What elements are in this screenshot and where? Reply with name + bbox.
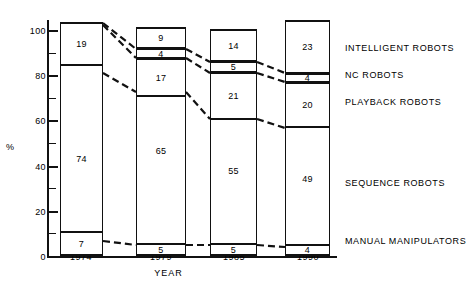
- segment-value: 74: [61, 154, 102, 163]
- segment-1990-playback-robots[interactable]: 20: [285, 82, 330, 128]
- segment-value: 9: [137, 34, 185, 43]
- segment-1974-intelligent-robots[interactable]: 19: [60, 22, 103, 66]
- segment-1990-manual-manipulators[interactable]: 4: [285, 244, 330, 256]
- segment-value: 5: [137, 245, 185, 254]
- bar-1979[interactable]: 9 4 17 65 5: [136, 27, 186, 256]
- segment-value: 4: [286, 246, 329, 255]
- segment-1985-sequence-robots[interactable]: 55: [210, 119, 257, 245]
- segment-value: 20: [286, 101, 329, 110]
- series-label-manual-manipulators: MANUAL MANIPULATORS: [345, 236, 466, 246]
- series-label-playback-robots: PLAYBACK ROBOTS: [345, 97, 441, 107]
- segment-value: 5: [211, 245, 256, 254]
- segment-value: 23: [286, 43, 329, 52]
- segment-value: 21: [211, 92, 256, 101]
- segment-value: 17: [137, 73, 185, 82]
- segment-1985-playback-robots[interactable]: 21: [210, 72, 257, 120]
- segment-1985-manual-manipulators[interactable]: 5: [210, 243, 257, 256]
- segment-value: 7: [61, 239, 102, 248]
- segment-value: 49: [286, 175, 329, 184]
- segment-1990-intelligent-robots[interactable]: 23: [285, 20, 330, 74]
- series-label-nc-robots: NC ROBOTS: [345, 70, 404, 80]
- segment-value: 55: [211, 166, 256, 175]
- series-label-sequence-robots: SEQUENCE ROBOTS: [345, 178, 445, 188]
- bar-1990[interactable]: 23 4 20 49 4: [285, 20, 330, 256]
- segment-1974-manual-manipulators[interactable]: 7: [60, 231, 103, 256]
- segment-1979-intelligent-robots[interactable]: 9: [136, 27, 186, 49]
- segment-1979-playback-robots[interactable]: 17: [136, 58, 186, 97]
- segment-value: 4: [137, 49, 185, 58]
- segment-value: 14: [211, 41, 256, 50]
- bar-1974[interactable]: 19 74 7: [60, 22, 103, 256]
- bar-1985[interactable]: 14 5 21 55 5: [210, 29, 257, 256]
- segment-1979-manual-manipulators[interactable]: 5: [136, 243, 186, 256]
- segment-1985-intelligent-robots[interactable]: 14: [210, 29, 257, 62]
- segment-value: 19: [61, 40, 102, 49]
- segment-1974-sequence-robots[interactable]: 74: [60, 65, 103, 233]
- series-label-intelligent-robots: INTELLIGENT ROBOTS: [345, 43, 454, 53]
- segment-1979-sequence-robots[interactable]: 65: [136, 96, 186, 245]
- stacked-bar-chart: 100 80 60 40 20 0 % 1974 1979 1985 1990 …: [0, 0, 469, 285]
- segment-value: 65: [137, 147, 185, 156]
- segment-1990-sequence-robots[interactable]: 49: [285, 127, 330, 245]
- segment-value: 5: [211, 63, 256, 72]
